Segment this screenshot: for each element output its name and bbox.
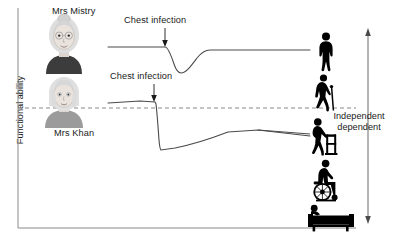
avatar-mrs-khan (45, 77, 83, 128)
person-with-cane-icon (315, 74, 333, 111)
person-in-bed-icon (308, 205, 354, 232)
chest-infection-arrow-khan (151, 84, 157, 102)
patient-name-mistry: Mrs Mistry (52, 6, 95, 16)
person-in-wheelchair-icon (314, 160, 338, 202)
patient-name-khan: Mrs Khan (54, 128, 94, 138)
spectrum-top-label: Independent (327, 111, 391, 122)
independence-spectrum-label: Independent dependent (327, 111, 391, 133)
chest-infection-label-mistry: Chest infection (124, 15, 186, 25)
functional-ability-diagram: Functional ability (0, 0, 400, 237)
avatar-mrs-mistry (46, 14, 82, 74)
spectrum-bottom-label: dependent (327, 122, 391, 133)
standing-person-icon (319, 33, 332, 72)
chest-infection-label-khan: Chest infection (110, 71, 172, 81)
chest-infection-arrow-mistry (162, 28, 168, 47)
mistry-trajectory-curve (108, 47, 310, 73)
